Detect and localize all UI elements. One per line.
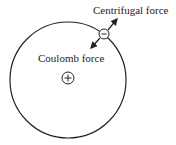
atom-diagram: Centrifugal force Coulomb force xyxy=(0,0,176,145)
coulomb-label: Coulomb force xyxy=(38,52,104,64)
centrifugal-arrow xyxy=(108,19,117,30)
centrifugal-label: Centrifugal force xyxy=(93,4,169,16)
nucleus xyxy=(62,72,74,84)
coulomb-arrow xyxy=(91,38,100,48)
electron xyxy=(99,29,109,39)
